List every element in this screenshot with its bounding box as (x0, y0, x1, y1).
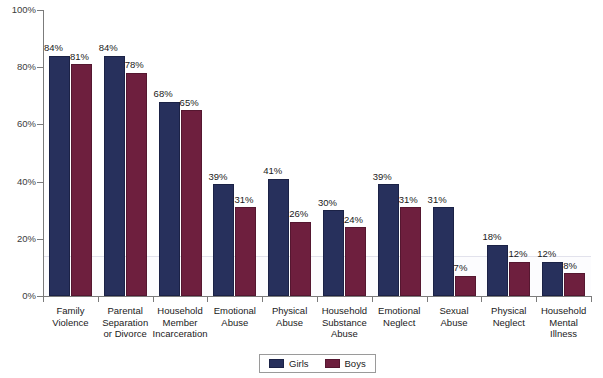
y-axis-tick-label: 40% (3, 177, 36, 187)
x-axis-tick (372, 297, 373, 302)
bar-boys (400, 207, 421, 296)
bar-girls (104, 56, 125, 296)
category-label-line: Separation (94, 317, 157, 329)
bar-value-label-boys: 24% (344, 215, 363, 225)
legend-label: Boys (345, 359, 366, 369)
x-axis-category-label: HouseholdMentalIllness (532, 305, 595, 340)
category-label-line: Household (149, 305, 212, 317)
category-label-line: Abuse (313, 328, 376, 340)
x-axis-category-label: PhysicalNeglect (477, 305, 540, 328)
bar-value-label-boys: 26% (289, 209, 308, 219)
bar-group: 84%81% (43, 10, 98, 296)
x-axis-tick (153, 297, 154, 302)
bar-boys (181, 110, 202, 296)
bar-value-label-boys: 78% (125, 60, 144, 70)
bar-girls (213, 184, 234, 296)
bar-group: 31%7% (427, 10, 482, 296)
legend-label: Girls (289, 359, 309, 369)
y-axis-labels: 0%20%40%60%80%100% (0, 0, 36, 378)
category-label-line: Abuse (258, 317, 321, 329)
bar-boys (71, 64, 92, 296)
x-axis-category-label: ParentalSeparationor Divorce (94, 305, 157, 340)
bar-value-label-boys: 8% (563, 261, 577, 271)
y-axis-tick-label: 100% (3, 5, 36, 15)
bar-boys (290, 222, 311, 296)
category-label-line: Substance (313, 317, 376, 329)
legend-item: Girls (269, 359, 309, 369)
bar-group: 39%31% (372, 10, 427, 296)
x-axis-tick (262, 297, 263, 302)
category-label-line: Household (313, 305, 376, 317)
category-label-line: Incarceration (149, 328, 212, 340)
x-axis-tick (427, 297, 428, 302)
bar-group: 12%8% (536, 10, 591, 296)
bar-boys (345, 227, 366, 296)
category-label-line: Sexual (423, 305, 486, 317)
x-axis-tick (43, 297, 44, 302)
bar-group: 18%12% (481, 10, 536, 296)
bar-group: 68%65% (153, 10, 208, 296)
x-axis-tick (98, 297, 99, 302)
category-label-line: Violence (39, 317, 102, 329)
category-label-line: Household (532, 305, 595, 317)
bar-value-label-boys: 65% (180, 98, 199, 108)
bar-girls (542, 262, 563, 296)
x-axis-category-label: HouseholdMemberIncarceration (149, 305, 212, 340)
bar-girls (323, 210, 344, 296)
bar-value-label-girls: 31% (428, 195, 447, 205)
x-axis-category-label: PhysicalAbuse (258, 305, 321, 328)
bar-group: 39%31% (207, 10, 262, 296)
category-label-line: Neglect (368, 317, 431, 329)
bar-value-label-boys: 31% (234, 195, 253, 205)
category-label-line: Member (149, 317, 212, 329)
bar-value-label-girls: 39% (373, 172, 392, 182)
category-label-line: Mental (532, 317, 595, 329)
category-label-line: Emotional (203, 305, 266, 317)
x-axis-category-label: EmotionalAbuse (203, 305, 266, 328)
x-axis-category-label: SexualAbuse (423, 305, 486, 328)
y-axis-tick-label: 80% (3, 62, 36, 72)
bar-value-label-girls: 84% (44, 43, 63, 53)
bar-girls (487, 245, 508, 296)
x-axis-category-label: FamilyViolence (39, 305, 102, 328)
x-axis-tick (536, 297, 537, 302)
category-label-line: Neglect (477, 317, 540, 329)
category-label-line: Physical (258, 305, 321, 317)
x-axis-tick (207, 297, 208, 302)
bar-value-label-girls: 39% (208, 172, 227, 182)
bar-girls (159, 102, 180, 296)
legend-swatch-icon (325, 359, 340, 368)
bar-value-label-girls: 41% (263, 166, 282, 176)
bar-girls (268, 179, 289, 296)
x-axis-category-label: HouseholdSubstanceAbuse (313, 305, 376, 340)
plot-area: 84%81%84%78%68%65%39%31%41%26%30%24%39%3… (43, 10, 591, 296)
bar-boys (126, 73, 147, 296)
bar-boys (564, 273, 585, 296)
x-axis-category-label: EmotionalNeglect (368, 305, 431, 328)
chart-legend: GirlsBoys (259, 354, 376, 373)
category-label-line: Emotional (368, 305, 431, 317)
bar-value-label-girls: 12% (537, 249, 556, 259)
bar-value-label-girls: 30% (318, 198, 337, 208)
category-label-line: Family (39, 305, 102, 317)
bar-value-label-boys: 81% (70, 52, 89, 62)
bar-value-label-boys: 12% (508, 249, 527, 259)
x-axis-tick (591, 297, 592, 302)
bar-group: 84%78% (98, 10, 153, 296)
category-label-line: or Divorce (94, 328, 157, 340)
bar-value-label-girls: 84% (99, 43, 118, 53)
y-axis-tick-label: 60% (3, 119, 36, 129)
bar-boys (509, 262, 530, 296)
bar-group: 41%26% (262, 10, 317, 296)
bar-boys (455, 276, 476, 296)
bar-value-label-girls: 68% (154, 89, 173, 99)
category-label-line: Illness (532, 328, 595, 340)
x-axis-tick (317, 297, 318, 302)
bar-boys (235, 207, 256, 296)
bar-girls (378, 184, 399, 296)
category-label-line: Parental (94, 305, 157, 317)
category-label-line: Abuse (423, 317, 486, 329)
legend-swatch-icon (269, 359, 284, 368)
bar-value-label-boys: 31% (399, 195, 418, 205)
x-axis-tick (481, 297, 482, 302)
